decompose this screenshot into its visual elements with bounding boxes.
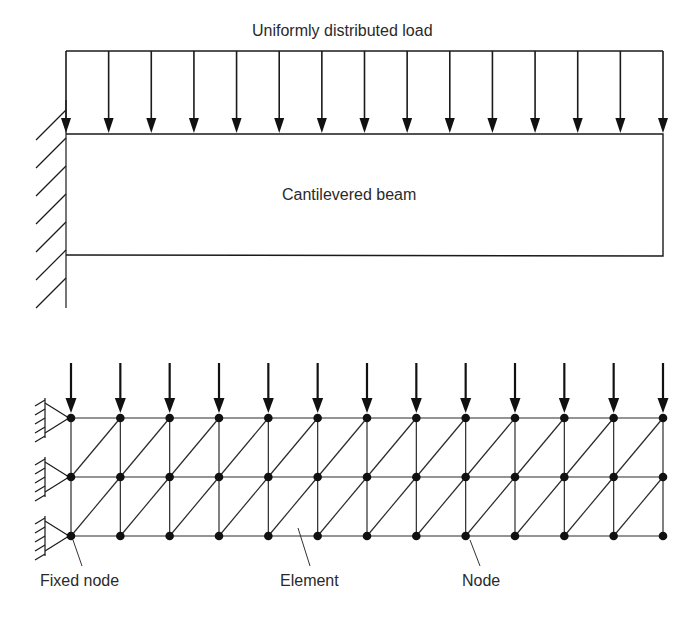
node-dot — [461, 473, 470, 482]
arrowhead-icon — [487, 118, 497, 133]
pin-support-icon — [45, 521, 69, 551]
element-diagonal — [120, 477, 169, 536]
arrowhead-icon — [615, 118, 625, 133]
node-dot — [165, 473, 174, 482]
arrowhead-icon — [608, 398, 619, 413]
arrowhead-icon — [362, 398, 373, 413]
arrowhead-icon — [411, 398, 422, 413]
arrowhead-icon — [658, 118, 668, 133]
node-dot — [363, 414, 372, 423]
node-dot — [511, 473, 520, 482]
arrowhead-icon — [510, 398, 521, 413]
arrowhead-icon — [104, 118, 114, 133]
node-dot — [609, 532, 618, 541]
node-dot — [363, 532, 372, 541]
element-diagonal — [614, 418, 663, 477]
arrowhead-icon — [66, 398, 77, 413]
arrowhead-icon — [232, 118, 242, 133]
element-diagonal — [466, 477, 515, 536]
element-diagonal — [367, 418, 416, 477]
element-diagonal — [564, 477, 613, 536]
element-diagonal — [219, 477, 268, 536]
node-dot — [363, 473, 372, 482]
element-diagonal — [219, 418, 268, 477]
pin-supports — [35, 398, 69, 560]
arrowhead-icon — [317, 118, 327, 133]
arrowhead-icon — [460, 398, 471, 413]
node-dot — [412, 414, 421, 423]
node-dot — [67, 414, 76, 423]
node-load-arrows — [66, 363, 669, 413]
load-label: Uniformly distributed load — [252, 22, 433, 40]
pin-support-icon — [45, 462, 69, 492]
node-dot — [511, 532, 520, 541]
node-dot — [659, 532, 668, 541]
arrowhead-icon — [214, 398, 225, 413]
element-diagonal — [268, 418, 317, 477]
node-dot — [165, 532, 174, 541]
beam-label: Cantilevered beam — [282, 186, 416, 204]
node-dot — [215, 473, 224, 482]
arrowhead-icon — [402, 118, 412, 133]
element-diagonal — [71, 477, 120, 536]
element-diagonal — [268, 477, 317, 536]
node-dot — [67, 532, 76, 541]
node-dot — [461, 414, 470, 423]
element-diagonal — [71, 418, 120, 477]
fea-diagram — [0, 0, 699, 624]
fixed-wall-support — [36, 100, 66, 308]
node-dot — [609, 414, 618, 423]
element-diagonal — [416, 418, 465, 477]
arrowhead-icon — [559, 398, 570, 413]
arrowhead-icon — [530, 118, 540, 133]
node-dot — [67, 473, 76, 482]
arrowhead-icon — [263, 398, 274, 413]
element-diagonal — [466, 418, 515, 477]
node-leader — [470, 540, 480, 566]
element-diagonal — [367, 477, 416, 536]
arrowhead-icon — [146, 118, 156, 133]
node-dot — [313, 532, 322, 541]
node-dot — [412, 473, 421, 482]
node-dot — [412, 532, 421, 541]
element-diagonal — [318, 418, 367, 477]
node-label: Node — [462, 572, 500, 590]
element-diagonal — [515, 418, 564, 477]
node-dot — [313, 473, 322, 482]
node-dot — [264, 414, 273, 423]
node-dot — [659, 414, 668, 423]
element-diagonal — [170, 418, 219, 477]
arrowhead-icon — [573, 118, 583, 133]
node-dot — [609, 473, 618, 482]
node-dot — [215, 532, 224, 541]
node-dot — [116, 473, 125, 482]
node-dot — [165, 414, 174, 423]
node-dot — [313, 414, 322, 423]
arrowhead-icon — [164, 398, 175, 413]
node-dot — [461, 532, 470, 541]
element-diagonal — [120, 418, 169, 477]
arrowhead-icon — [189, 118, 199, 133]
element-label: Element — [280, 572, 339, 590]
fixed-node-label: Fixed node — [40, 572, 119, 590]
node-dot — [659, 473, 668, 482]
fixed-node-leader — [73, 540, 82, 566]
element-diagonal — [318, 477, 367, 536]
arrowhead-icon — [312, 398, 323, 413]
distributed-load — [61, 51, 668, 133]
arrowhead-icon — [115, 398, 126, 413]
node-dot — [116, 532, 125, 541]
node-dot — [560, 414, 569, 423]
arrowhead-icon — [274, 118, 284, 133]
node-dot — [511, 414, 520, 423]
element-diagonal — [564, 418, 613, 477]
arrowhead-icon — [360, 118, 370, 133]
arrowhead-icon — [445, 118, 455, 133]
node-dot — [560, 532, 569, 541]
pin-support-icon — [45, 403, 69, 433]
node-dot — [264, 532, 273, 541]
node-dot — [215, 414, 224, 423]
element-diagonal — [170, 477, 219, 536]
node-dot — [560, 473, 569, 482]
node-dot — [264, 473, 273, 482]
